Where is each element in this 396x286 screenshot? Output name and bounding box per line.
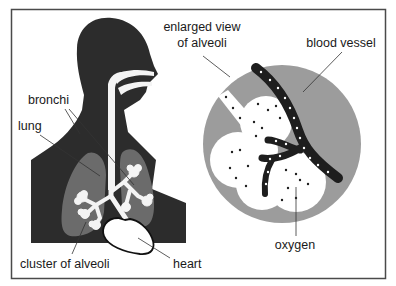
label-lung: lung [18, 119, 42, 133]
enlarged-alveoli-view [203, 65, 361, 223]
label-bronchi: bronchi [28, 93, 69, 107]
label-heart: heart [173, 257, 202, 271]
label-enlarged-view-line2: of alveoli [177, 36, 226, 50]
respiratory-diagram: enlarged view of alveoli blood vessel br… [0, 0, 396, 286]
label-enlarged-view-line1: enlarged view [163, 20, 241, 34]
label-cluster-of-alveoli: cluster of alveoli [20, 257, 110, 271]
label-blood-vessel: blood vessel [306, 36, 376, 50]
label-oxygen: oxygen [275, 238, 315, 252]
